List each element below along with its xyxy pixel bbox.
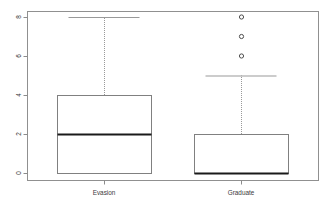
y-axis: 02468	[15, 15, 28, 175]
boxplot-canvas: 02468EvasionGraduate	[0, 0, 332, 199]
y-tick-label: 6	[15, 54, 22, 58]
outlier-point	[239, 15, 243, 19]
y-tick-label: 8	[15, 15, 22, 19]
outlier-point	[239, 54, 243, 58]
box-group-graduate	[195, 15, 289, 174]
y-tick-label: 0	[15, 171, 22, 175]
boxplot-figure: 02468EvasionGraduate	[0, 0, 332, 199]
y-tick-label: 4	[15, 93, 22, 97]
outlier-point	[239, 34, 243, 38]
y-tick-label: 2	[15, 132, 22, 136]
box-iqr-rect	[195, 135, 289, 174]
x-axis: EvasionGraduate	[93, 181, 255, 196]
x-tick-label-evasion: Evasion	[93, 189, 116, 196]
box-group-evasion	[58, 17, 152, 174]
x-tick-label-graduate: Graduate	[228, 189, 255, 196]
